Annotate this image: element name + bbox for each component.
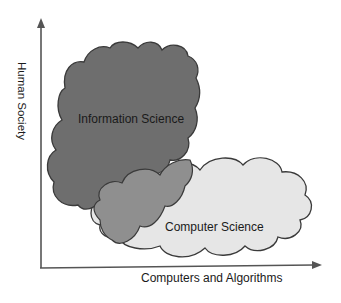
diagram-svg — [0, 0, 341, 303]
computer-science-label: Computer Science — [165, 220, 264, 234]
x-axis-arrow-icon — [312, 261, 322, 269]
information-science-label: Information Science — [78, 112, 184, 126]
x-axis-label: Computers and Algorithms — [141, 271, 282, 285]
diagram: Human Society Computers and Algorithms I… — [0, 0, 341, 303]
y-axis-label: Human Society — [16, 62, 28, 140]
y-axis-arrow-icon — [37, 18, 45, 28]
x-axis — [40, 265, 314, 268]
